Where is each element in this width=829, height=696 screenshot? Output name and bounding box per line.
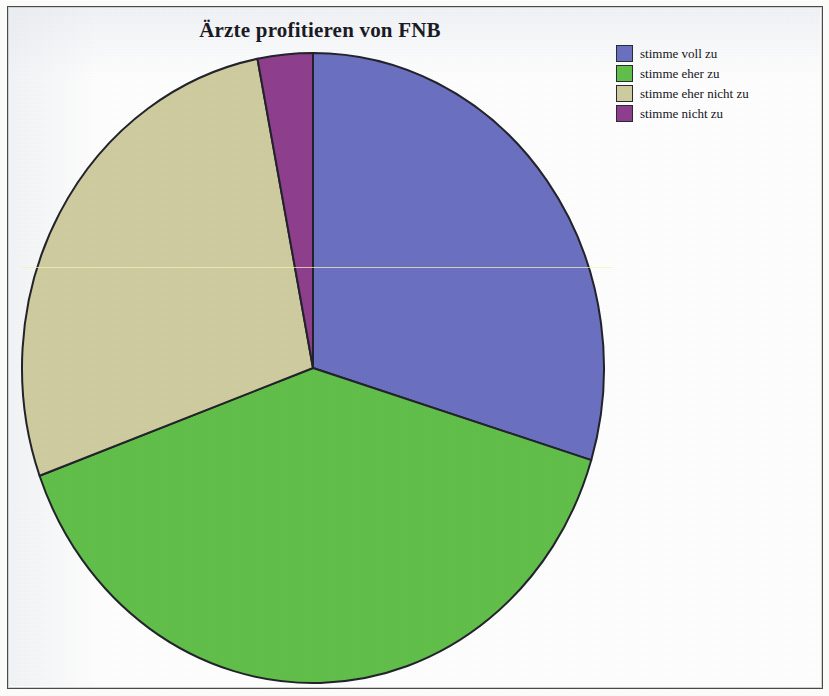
pie-slice-group: stimme voll zu — 29.7%stimme eher zu — 3… xyxy=(22,53,604,683)
legend-item-stimme-voll-zu[interactable]: stimme voll zu xyxy=(616,44,822,63)
legend-item-stimme-eher-nicht-zu[interactable]: stimme eher nicht zu xyxy=(616,84,822,103)
legend-swatch-icon xyxy=(616,85,633,102)
legend-item-stimme-eher-zu[interactable]: stimme eher zu xyxy=(616,64,822,83)
legend-swatch-icon xyxy=(616,105,633,122)
legend-swatch-icon xyxy=(616,45,633,62)
chart-legend: stimme voll zu stimme eher zu stimme ehe… xyxy=(616,44,822,124)
legend-swatch-icon xyxy=(616,65,633,82)
scanned-chart-page: Ärzte profitieren von FNB stimme voll zu… xyxy=(0,0,829,696)
pie-chart: stimme voll zu — 29.7%stimme eher zu — 3… xyxy=(0,0,640,696)
pie-chart-svg: stimme voll zu — 29.7%stimme eher zu — 3… xyxy=(0,0,640,696)
legend-item-label: stimme voll zu xyxy=(640,46,717,61)
legend-item-stimme-nicht-zu[interactable]: stimme nicht zu xyxy=(616,104,822,123)
legend-item-label: stimme eher nicht zu xyxy=(640,86,749,101)
legend-item-label: stimme eher zu xyxy=(640,66,719,81)
legend-item-label: stimme nicht zu xyxy=(640,106,723,121)
